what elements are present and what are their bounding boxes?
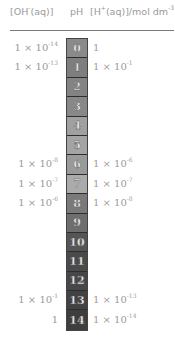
hydrogen-concentration-6: 1 × 10-6 bbox=[93, 158, 133, 169]
ph-cell-10: 10 bbox=[67, 233, 87, 252]
ph-cell-12: 12 bbox=[67, 272, 87, 291]
ph-value: 12 bbox=[69, 274, 84, 287]
ph-value: 11 bbox=[69, 255, 84, 268]
ph-cell-14: 14 bbox=[67, 310, 87, 329]
ph-cell-6: 6 bbox=[67, 155, 87, 174]
hydrogen-concentration-14: 1 × 10-14 bbox=[93, 314, 137, 325]
ph-value: 13 bbox=[69, 294, 84, 307]
ph-value: 4 bbox=[73, 119, 81, 132]
ph-value: 9 bbox=[73, 216, 81, 229]
hydrogen-concentration-1: 1 × 10-1 bbox=[93, 61, 133, 72]
ph-cell-4: 4 bbox=[67, 117, 87, 136]
hydroxide-concentration-7: 1 × 10-7 bbox=[18, 178, 58, 189]
header-divider bbox=[10, 30, 174, 31]
ph-cell-0: 0 bbox=[67, 39, 87, 58]
ph-value: 0 bbox=[73, 42, 81, 55]
hydroxide-concentration-1: 1 × 10-13 bbox=[15, 61, 59, 72]
ph-header: pH bbox=[70, 6, 83, 17]
ph-cell-5: 5 bbox=[67, 136, 87, 155]
hydroxide-concentration-header: [OH-(aq)] bbox=[10, 6, 53, 17]
ph-value: 2 bbox=[73, 80, 81, 93]
ph-cell-3: 3 bbox=[67, 97, 87, 116]
table-header: [OH-(aq)] pH [H+(aq)]/mol dm-3 bbox=[0, 6, 175, 22]
ph-value: 8 bbox=[73, 197, 81, 210]
hydroxide-concentration-14: 1 bbox=[52, 314, 58, 325]
ph-cell-9: 9 bbox=[67, 214, 87, 233]
hydrogen-concentration-header: [H+(aq)]/mol dm-3 bbox=[90, 6, 174, 17]
ph-cell-11: 11 bbox=[67, 252, 87, 271]
hydroxide-concentration-8: 1 × 10-6 bbox=[18, 197, 58, 208]
ph-cell-13: 13 bbox=[67, 291, 87, 310]
hydrogen-concentration-0: 1 bbox=[93, 42, 99, 53]
ph-scale-column: 01234567891011121314 bbox=[66, 38, 88, 331]
hydrogen-concentration-8: 1 × 10-8 bbox=[93, 197, 133, 208]
ph-value: 10 bbox=[69, 236, 84, 249]
ph-value: 7 bbox=[73, 177, 81, 190]
ph-cell-1: 1 bbox=[67, 58, 87, 77]
ph-value: 5 bbox=[73, 139, 81, 152]
hydroxide-concentration-13: 1 × 10-1 bbox=[18, 294, 58, 305]
ph-cell-2: 2 bbox=[67, 78, 87, 97]
hydrogen-concentration-7: 1 × 10-7 bbox=[93, 178, 133, 189]
hydroxide-concentration-0: 1 × 10-14 bbox=[15, 42, 59, 53]
hydroxide-concentration-6: 1 × 10-8 bbox=[18, 158, 58, 169]
hydrogen-concentration-13: 1 × 10-13 bbox=[93, 294, 137, 305]
ph-value: 1 bbox=[73, 61, 81, 74]
ph-value: 14 bbox=[69, 314, 84, 327]
ph-value: 6 bbox=[73, 158, 81, 171]
ph-value: 3 bbox=[73, 100, 81, 113]
ph-cell-7: 7 bbox=[67, 175, 87, 194]
ph-cell-8: 8 bbox=[67, 194, 87, 213]
